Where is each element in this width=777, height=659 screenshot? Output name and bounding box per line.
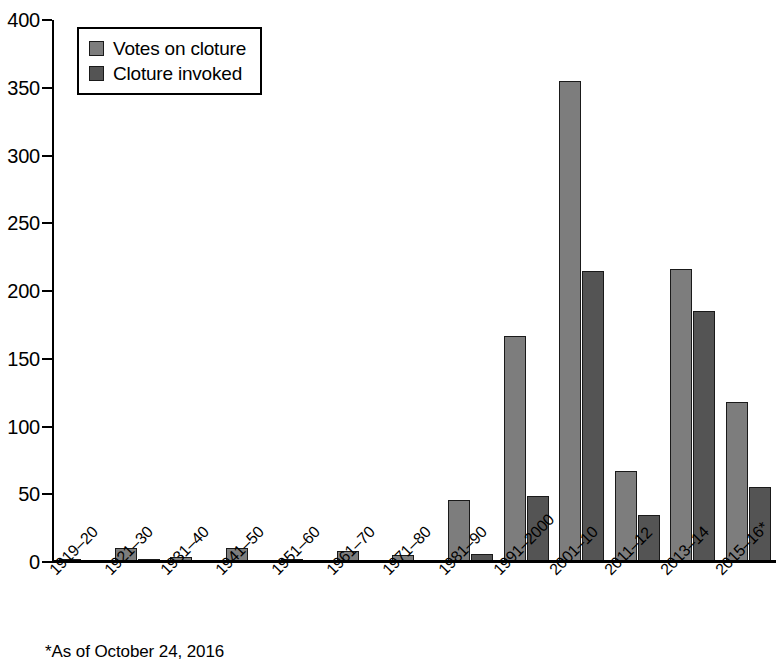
y-axis-tick-label: 150 xyxy=(0,349,40,369)
y-axis-tick xyxy=(42,493,52,495)
y-axis-tick-label-text: 50 xyxy=(2,484,40,504)
bar-group xyxy=(165,20,221,562)
bar-group xyxy=(609,20,665,562)
bar xyxy=(504,336,526,562)
y-axis-tick xyxy=(42,358,52,360)
y-axis-tick-label-text: 400 xyxy=(2,10,40,30)
plot-area xyxy=(54,20,776,562)
y-axis-tick-label-text: 300 xyxy=(2,146,40,166)
y-axis-tick-label: 350 xyxy=(0,78,40,98)
bar-group xyxy=(443,20,499,562)
legend-swatch-icon xyxy=(89,41,104,56)
y-axis-tick xyxy=(42,155,52,157)
legend-item: Votes on cloture xyxy=(89,36,246,61)
y-axis-tick-label: 100 xyxy=(0,417,40,437)
y-axis-tick-label: 300 xyxy=(0,146,40,166)
y-axis-tick xyxy=(42,87,52,89)
bar-group xyxy=(332,20,388,562)
bar xyxy=(582,271,604,562)
y-axis-tick-label: 400 xyxy=(0,10,40,30)
bar xyxy=(559,81,581,562)
y-axis-tick-label: 0 xyxy=(0,552,40,572)
bar-group xyxy=(665,20,721,562)
y-axis-tick-label-text: 200 xyxy=(2,281,40,301)
cloture-votes-bar-chart: 050100150200250300350400 1919–201921–301… xyxy=(0,0,777,659)
y-axis-tick-label-text: 100 xyxy=(2,417,40,437)
bar-group xyxy=(221,20,277,562)
bar-group xyxy=(276,20,332,562)
y-axis-tick xyxy=(42,290,52,292)
y-axis-tick-label: 200 xyxy=(0,281,40,301)
y-axis-tick xyxy=(42,426,52,428)
legend-swatch-icon xyxy=(89,66,104,81)
y-axis-tick-label: 50 xyxy=(0,484,40,504)
bar-group xyxy=(110,20,166,562)
y-axis-tick xyxy=(42,19,52,21)
legend-item: Cloture invoked xyxy=(89,61,246,86)
bar-group xyxy=(720,20,776,562)
bar-group xyxy=(54,20,110,562)
bar-group xyxy=(554,20,610,562)
footnote: *As of October 24, 2016 xyxy=(45,642,224,659)
bar xyxy=(670,269,692,562)
legend-item-label: Cloture invoked xyxy=(113,64,242,83)
chart-legend: Votes on clotureCloture invoked xyxy=(77,27,262,95)
y-axis-tick-label-text: 150 xyxy=(2,349,40,369)
y-axis-tick xyxy=(42,222,52,224)
y-axis-tick-label-text: 350 xyxy=(2,78,40,98)
legend-item-label: Votes on cloture xyxy=(113,39,246,58)
bar-group xyxy=(387,20,443,562)
y-axis-tick-label: 250 xyxy=(0,213,40,233)
y-axis-tick-label-text: 0 xyxy=(2,552,40,572)
bar-group xyxy=(498,20,554,562)
bar xyxy=(693,311,715,562)
y-axis-tick-label-text: 250 xyxy=(2,213,40,233)
